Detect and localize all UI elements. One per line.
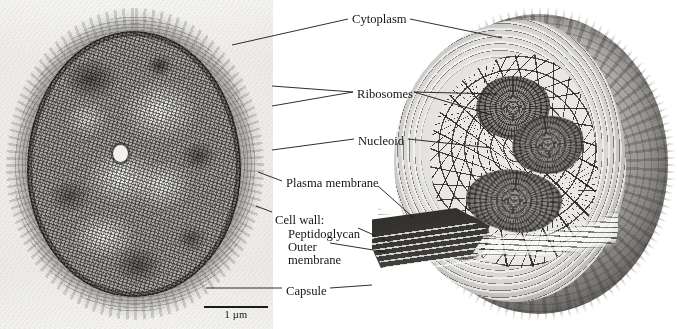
label-layer: CytoplasmRibosomesNucleoidPlasma membran… — [0, 0, 677, 329]
label-plasma-membrane: Plasma membrane — [286, 177, 379, 190]
label-cytoplasm: Cytoplasm — [352, 13, 407, 26]
label-cell-wall: Cell wall: — [275, 214, 324, 227]
label-capsule: Capsule — [286, 285, 327, 298]
label-ribosomes: Ribosomes — [357, 88, 413, 101]
label-outer-membrane-2: membrane — [288, 254, 341, 267]
label-nucleoid: Nucleoid — [358, 135, 404, 148]
prokaryotic-cell-figure: 1 µm CytoplasmRibosomesNucleoidPlasma me… — [0, 0, 677, 329]
